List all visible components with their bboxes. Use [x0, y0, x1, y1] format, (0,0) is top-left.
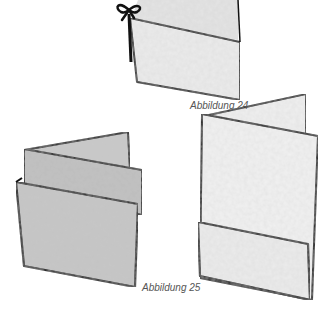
figure-25-left-drawing — [16, 132, 142, 287]
figure-24-drawing — [118, 0, 240, 100]
figure-25-right-drawing — [198, 94, 318, 300]
figure-24-caption: Abbildung 24 — [190, 100, 248, 111]
figure-25-caption: Abbildung 25 — [142, 282, 200, 293]
illustration — [0, 0, 326, 316]
